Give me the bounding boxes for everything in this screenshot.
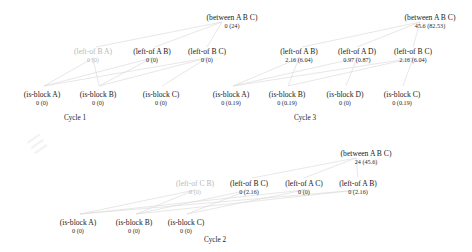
node-is-block-d[interactable]: (is-block D)0 (0) <box>327 91 364 106</box>
node-value: 2.16 (6.04) <box>280 57 318 64</box>
node-value: 0 (2.16) <box>339 189 377 196</box>
node-left-of-a-d[interactable]: (left-of A D)0.97 (0.87) <box>338 48 376 63</box>
node-is-block-c[interactable]: (is-block C)0 (0) <box>168 219 205 234</box>
node-is-block-a[interactable]: (is-block A)0 (0) <box>60 219 97 234</box>
node-between-a-b-c[interactable]: (between A B C)0 (24) <box>207 14 258 29</box>
cycle-label-cycle-3: Cycle 3 <box>294 114 316 122</box>
node-is-block-b[interactable]: (is-block B)0 (0) <box>116 219 153 234</box>
graph-edge <box>44 58 207 86</box>
node-left-of-a-b[interactable]: (left-of A B)0 (0) <box>133 48 171 63</box>
node-value: 0 (0) <box>143 100 180 107</box>
node-left-of-b-c[interactable]: (left-of B C)2.16 (6.04) <box>394 48 432 63</box>
node-value: 0.97 (0.87) <box>338 57 376 64</box>
node-label: (left-of C B) <box>176 180 214 188</box>
edge-layer <box>0 0 472 252</box>
node-label: (left-of A B) <box>280 48 318 56</box>
node-value: 0 (2.16) <box>230 189 268 196</box>
node-label: (is-block B) <box>269 91 306 99</box>
node-value: 0 (0) <box>116 228 153 235</box>
node-label: (left-of B C) <box>230 180 268 188</box>
node-label: (is-block A) <box>60 219 97 227</box>
node-label: (between A B C) <box>405 14 456 22</box>
node-is-block-a[interactable]: (is-block A)0 (0.19) <box>213 91 250 106</box>
node-is-block-a[interactable]: (is-block A)0 (0) <box>24 91 61 106</box>
node-value: 24 (45.6) <box>341 159 392 166</box>
node-label: (left-of A C) <box>285 180 323 188</box>
graph-edge <box>96 22 222 47</box>
background-watermark: ☰ <box>23 129 52 159</box>
node-value: 0 (0) <box>188 57 226 64</box>
node-label: (between A B C) <box>207 14 258 22</box>
node-value: 0 (0) <box>168 228 205 235</box>
node-value: 0 (0) <box>80 100 117 107</box>
node-is-block-c[interactable]: (is-block C)0 (0.19) <box>384 91 421 106</box>
node-left-of-a-b[interactable]: (left-of A B)0 (2.16) <box>339 180 377 195</box>
node-between-a-b-c[interactable]: (between A B C)45.6 (82.53) <box>405 14 456 29</box>
node-between-a-b-c[interactable]: (between A B C)24 (45.6) <box>341 150 392 165</box>
node-label: (is-block C) <box>384 91 421 99</box>
node-label: (is-block A) <box>213 91 250 99</box>
node-label: (is-block D) <box>327 91 364 99</box>
node-value: 0 (0) <box>24 100 61 107</box>
graph-edge <box>302 22 420 47</box>
cycle-label-cycle-1: Cycle 1 <box>64 114 86 122</box>
node-left-of-b-a[interactable]: (left-of B A)0 (0) <box>74 48 112 63</box>
node-label: (is-block B) <box>80 91 117 99</box>
node-value: 0 (0) <box>327 100 364 107</box>
node-value: 0 (0) <box>285 189 323 196</box>
node-left-of-c-b[interactable]: (left-of C B)0 (0) <box>176 180 214 195</box>
graph-edge <box>233 58 413 86</box>
node-left-of-b-c[interactable]: (left-of B C)0 (0) <box>188 48 226 63</box>
node-value: 45.6 (82.53) <box>405 23 456 30</box>
node-is-block-c[interactable]: (is-block C)0 (0) <box>143 91 180 106</box>
node-left-of-b-c[interactable]: (left-of B C)0 (2.16) <box>230 180 268 195</box>
node-label: (left-of A B) <box>133 48 171 56</box>
node-label: (left-of B C) <box>394 48 432 56</box>
node-label: (left-of A D) <box>338 48 376 56</box>
node-label: (is-block B) <box>116 219 153 227</box>
node-label: (left-of B C) <box>188 48 226 56</box>
node-left-of-a-c[interactable]: (left-of A C)0 (0) <box>285 180 323 195</box>
node-value: 0 (24) <box>207 23 258 30</box>
node-value: 0 (0) <box>133 57 171 64</box>
node-label: (is-block C) <box>168 219 205 227</box>
node-value: 0 (0) <box>74 57 112 64</box>
node-is-block-b[interactable]: (is-block B)0 (0) <box>80 91 117 106</box>
cycle-label-cycle-2: Cycle 2 <box>204 236 226 244</box>
node-value: 0 (0.19) <box>269 100 306 107</box>
node-label: (left-of B A) <box>74 48 112 56</box>
node-value: 0 (0.19) <box>384 100 421 107</box>
node-label: (is-block C) <box>143 91 180 99</box>
node-label: (between A B C) <box>341 150 392 158</box>
node-value: 2.16 (6.04) <box>394 57 432 64</box>
node-value: 0 (0.19) <box>213 100 250 107</box>
node-value: 0 (0) <box>60 228 97 235</box>
node-left-of-a-b[interactable]: (left-of A B)2.16 (6.04) <box>280 48 318 63</box>
node-value: 0 (0) <box>176 189 214 196</box>
node-label: (left-of A B) <box>339 180 377 188</box>
node-is-block-b[interactable]: (is-block B)0 (0.19) <box>269 91 306 106</box>
diagram-canvas: ☰ (between A B C)0 (24)(left-of B A)0 (0… <box>0 0 472 252</box>
node-label: (is-block A) <box>24 91 61 99</box>
